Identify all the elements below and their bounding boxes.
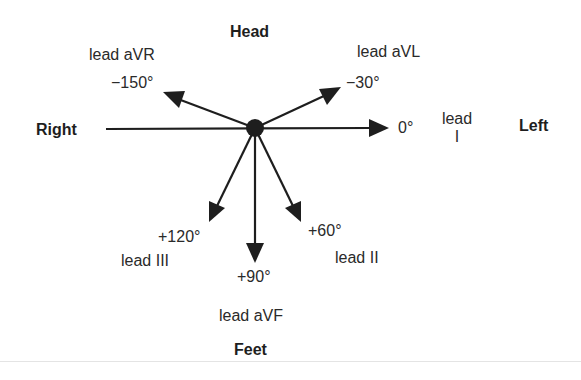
lead-i-axis-line	[106, 128, 370, 129]
label-left: Left	[519, 117, 548, 135]
lead-iii-vector	[217, 128, 255, 206]
lead-avr-arrowhead-icon	[163, 91, 185, 108]
lead-avr-vector	[178, 99, 255, 128]
lead-i-name-line2: I	[436, 128, 478, 146]
lead-i-name: lead I	[436, 110, 478, 146]
bottom-divider	[0, 361, 581, 362]
lead-avr-angle: −150°	[111, 74, 153, 92]
hexaxial-diagram: Head Right Left Feet lead aVR −150° lead…	[0, 0, 581, 380]
lead-iii-name: lead III	[121, 252, 169, 270]
lead-avl-vector	[255, 95, 326, 128]
lead-i-arrowhead-icon	[369, 119, 389, 137]
lead-ii-name: lead II	[335, 249, 379, 267]
lead-i-angle: 0°	[398, 119, 413, 137]
axis-vectors	[0, 0, 581, 380]
lead-i-name-line1: lead	[436, 110, 478, 128]
label-head: Head	[230, 23, 269, 41]
lead-ii-vector	[255, 128, 293, 206]
lead-avl-angle: −30°	[346, 74, 380, 92]
heart-center-dot-icon	[246, 119, 264, 137]
label-feet: Feet	[234, 341, 267, 359]
lead-avr-name: lead aVR	[89, 46, 155, 64]
lead-ii-angle: +60°	[308, 222, 342, 240]
lead-iii-angle: +120°	[158, 228, 200, 246]
lead-avf-angle: +90°	[237, 268, 271, 286]
lead-avl-name: lead aVL	[357, 43, 420, 61]
label-right: Right	[36, 121, 77, 139]
lead-avf-name: lead aVF	[219, 307, 283, 325]
lead-avf-arrowhead-icon	[246, 243, 264, 263]
